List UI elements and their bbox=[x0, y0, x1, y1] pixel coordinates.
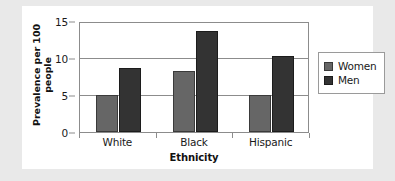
y-tick-label: 0 bbox=[28, 127, 68, 139]
y-tick-mark bbox=[69, 22, 75, 23]
bar-black-women bbox=[173, 71, 195, 132]
legend-label-men: Men bbox=[338, 74, 360, 86]
x-category-label-black: Black bbox=[180, 136, 207, 148]
chart-page: Prevalence per 100 people 051015 WhiteBl… bbox=[0, 0, 395, 181]
chart-card: Prevalence per 100 people 051015 WhiteBl… bbox=[22, 6, 373, 169]
x-tick-mark bbox=[309, 133, 310, 138]
x-category-label-white: White bbox=[103, 136, 133, 148]
x-category-label-hispanic: Hispanic bbox=[249, 136, 292, 148]
y-tick-label: 15 bbox=[28, 16, 68, 28]
plot-area bbox=[79, 22, 309, 133]
x-axis-category-labels: WhiteBlackHispanic bbox=[79, 136, 309, 152]
y-tick-mark bbox=[69, 96, 75, 97]
bar-chart-figure: Prevalence per 100 people 051015 WhiteBl… bbox=[22, 6, 373, 169]
legend-item-women: Women bbox=[324, 60, 377, 72]
legend-label-women: Women bbox=[338, 60, 377, 72]
y-axis-ticks: 051015 bbox=[22, 22, 79, 134]
chart-legend: Women Men bbox=[318, 52, 385, 94]
legend-swatch-women-icon bbox=[324, 62, 333, 71]
y-tick-mark bbox=[69, 133, 75, 134]
bar-hispanic-men bbox=[272, 56, 294, 132]
y-tick-mark bbox=[69, 59, 75, 60]
bar-hispanic-women bbox=[249, 95, 271, 132]
x-axis-label: Ethnicity bbox=[79, 152, 309, 163]
bar-black-men bbox=[196, 31, 218, 132]
legend-item-men: Men bbox=[324, 74, 377, 86]
bar-white-men bbox=[119, 68, 141, 132]
bar-white-women bbox=[96, 95, 118, 132]
bar-series-container bbox=[80, 23, 308, 132]
legend-swatch-men-icon bbox=[324, 76, 333, 85]
y-tick-label: 5 bbox=[28, 90, 68, 102]
y-tick-label: 10 bbox=[28, 53, 68, 65]
